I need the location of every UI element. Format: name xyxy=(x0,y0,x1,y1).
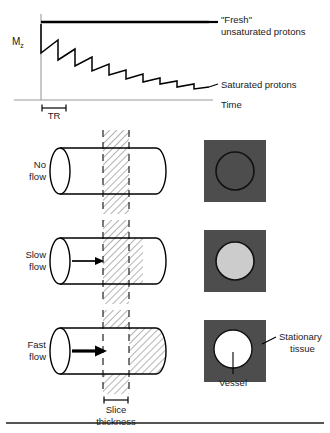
saturated-leader xyxy=(209,84,218,87)
row-slow-flow xyxy=(50,220,166,304)
y-axis-subscript: z xyxy=(20,42,24,49)
row-label-no-flow-line2: flow xyxy=(2,171,46,182)
row-label-fast-flow-line2: flow xyxy=(2,351,46,362)
flow-rows xyxy=(0,126,330,433)
fresh-protons-label-line1: "Fresh" xyxy=(221,14,252,25)
stationary-tissue-label-line2: tissue xyxy=(290,343,315,354)
mr-image-slow-flow xyxy=(204,230,266,292)
slice-band-no-flow xyxy=(103,130,129,214)
fresh-protons-label-line2: unsaturated protons xyxy=(221,26,306,37)
vessel-label: Vessel xyxy=(206,377,260,388)
tr-label: TR xyxy=(38,110,70,121)
row-fast-flow xyxy=(50,310,166,404)
saturated-spins-slow-flow xyxy=(129,238,143,284)
mr-image-no-flow xyxy=(204,140,266,202)
mri-flow-figure: Mz TR "Fresh" unsaturated protons Satura… xyxy=(0,0,330,433)
vessel-circle-no-flow xyxy=(216,152,254,190)
row-label-fast-flow-line1: Fast xyxy=(2,339,46,350)
mr-image-fast-flow xyxy=(204,320,276,382)
flow-arrow-slow xyxy=(72,257,104,265)
slice-thickness-label-line1: Slice xyxy=(86,404,146,415)
slice-thickness-bracket xyxy=(104,397,128,404)
time-axis-label: Time xyxy=(221,99,242,110)
row-label-slow-flow-line1: Slow xyxy=(2,249,46,260)
tube-end-cap-no-flow xyxy=(50,148,70,194)
row-no-flow xyxy=(50,130,166,214)
row-label-slow-flow-line2: flow xyxy=(2,261,46,272)
row-label-no-flow-line1: No xyxy=(2,159,46,170)
flow-arrow-fast xyxy=(72,346,107,357)
y-axis-label: Mz xyxy=(12,36,24,51)
saturated-protons-sawtooth xyxy=(41,24,209,89)
vessel-circle-slow-flow xyxy=(216,242,254,280)
slice-thickness-label-line2: thickness xyxy=(76,416,156,427)
tube-end-cap-slow-flow xyxy=(50,238,70,284)
saturated-protons-label: Saturated protons xyxy=(221,79,297,90)
saturated-spins-fast-flow xyxy=(129,328,165,374)
stationary-tissue-label-line1: Stationary xyxy=(279,331,322,342)
tube-end-cap-fast-flow xyxy=(50,328,70,374)
slice-band-slow-flow xyxy=(103,220,129,304)
